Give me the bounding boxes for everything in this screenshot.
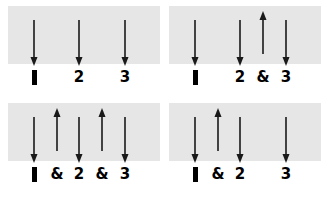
beat-number-label: 2	[235, 163, 245, 185]
beat-number-label: 2	[235, 66, 245, 88]
beat-bar-label	[188, 66, 202, 88]
beat-bar-label	[188, 163, 202, 185]
ampersand-label: &	[95, 163, 108, 185]
beat-bar-glyph	[193, 167, 198, 182]
ampersand-label: &	[256, 66, 269, 88]
beat-bar-glyph	[193, 70, 198, 85]
beat-bar-label	[27, 163, 41, 185]
label-row: 2&3	[169, 66, 321, 92]
panel-background	[8, 6, 160, 64]
ampersand-label: &	[50, 163, 63, 185]
label-row: &2&3	[8, 163, 160, 189]
beat-number-label: 3	[281, 66, 291, 88]
beat-number-label: 2	[74, 163, 84, 185]
arrow-diagram-figure: 232&3&2&3&23	[0, 0, 329, 199]
beat-bar-glyph	[32, 70, 37, 85]
beat-bar-label	[27, 66, 41, 88]
panel-bottom-right: &23	[169, 103, 321, 193]
panel-bottom-left: &2&3	[8, 103, 160, 193]
ampersand-label: &	[211, 163, 224, 185]
panel-top-left: 23	[8, 6, 160, 96]
panel-background	[169, 6, 321, 64]
label-row: 23	[8, 66, 160, 92]
panel-top-right: 2&3	[169, 6, 321, 96]
label-row: &23	[169, 163, 321, 189]
panel-background	[169, 103, 321, 161]
beat-number-label: 3	[120, 66, 130, 88]
panel-background	[8, 103, 160, 161]
beat-number-label: 3	[281, 163, 291, 185]
beat-number-label: 3	[120, 163, 130, 185]
beat-bar-glyph	[32, 167, 37, 182]
beat-number-label: 2	[74, 66, 84, 88]
